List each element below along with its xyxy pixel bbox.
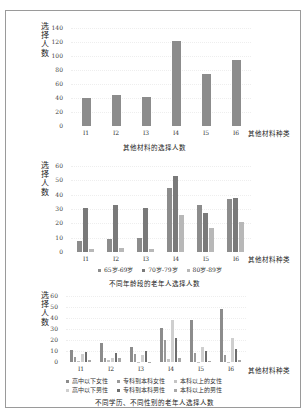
bar	[164, 340, 167, 362]
y-tick-label: 0	[47, 122, 63, 129]
x-tick-label: I3	[136, 129, 156, 136]
bar	[167, 188, 172, 253]
gridline	[66, 318, 246, 319]
legend-item: 80岁-89岁	[187, 265, 222, 274]
bar	[143, 208, 148, 252]
gridline	[71, 84, 251, 85]
bar	[100, 343, 103, 362]
bar	[81, 354, 84, 362]
gridline	[66, 307, 246, 308]
legend-swatch	[174, 389, 177, 392]
y-tick-label: 40	[47, 191, 63, 198]
bar	[201, 347, 204, 362]
bar	[137, 238, 142, 252]
y-tick-label: 10	[47, 234, 63, 241]
legend-label: 专科到本科男性	[123, 386, 165, 393]
bar	[173, 176, 178, 252]
gridline	[71, 28, 251, 29]
y-tick-label: 120	[47, 38, 63, 45]
gridline	[71, 180, 251, 181]
x-axis-title: 其他材料种类	[248, 254, 290, 264]
gridline	[71, 195, 251, 196]
y-tick-label: 0	[42, 358, 58, 365]
legend-swatch	[117, 389, 120, 392]
y-tick-label: 30	[47, 205, 63, 212]
chart-caption: 不同学历、不同性别的老年人选择人数	[6, 397, 302, 407]
y-tick-label: 30	[42, 325, 58, 332]
legend-swatch	[142, 269, 145, 272]
legend-label: 65岁-69岁	[104, 266, 133, 273]
legend-label: 专科到本科女性	[123, 377, 165, 384]
bar	[238, 360, 241, 362]
y-tick-label: 40	[42, 314, 58, 321]
bar	[107, 360, 110, 362]
legend-item: 70岁-79岁	[142, 265, 177, 274]
gridline	[71, 209, 251, 210]
bar	[104, 358, 107, 362]
bar	[149, 249, 154, 252]
legend-swatch	[66, 389, 69, 392]
gridline	[71, 223, 251, 224]
x-tick-label: I4	[161, 365, 181, 372]
x-tick-label: I1	[71, 365, 91, 372]
legend-swatch	[66, 380, 69, 383]
gridline	[71, 70, 251, 71]
bar	[179, 215, 184, 252]
bar	[239, 222, 244, 252]
bar	[227, 362, 230, 363]
plot-area: 0102030405060I1I2I3I4I5I6	[71, 166, 251, 252]
bar	[231, 338, 234, 362]
bar	[89, 249, 94, 252]
x-tick-label: I2	[106, 129, 126, 136]
x-tick-label: I4	[166, 129, 186, 136]
bar	[178, 358, 181, 362]
bar	[85, 352, 88, 362]
legend-swatch	[187, 269, 190, 272]
y-tick-label: 140	[47, 24, 63, 31]
legend: 65岁-69岁70岁-79岁80岁-89岁	[98, 265, 231, 274]
bar	[232, 60, 241, 126]
gridline	[71, 238, 251, 239]
bar	[224, 355, 227, 362]
gridline	[66, 296, 246, 297]
y-tick-label: 20	[47, 219, 63, 226]
bar	[145, 351, 148, 362]
legend-label: 80岁-89岁	[193, 266, 222, 273]
bar	[137, 362, 140, 363]
y-tick-label: 60	[47, 80, 63, 87]
x-tick-label: I5	[191, 365, 211, 372]
gridline	[66, 329, 246, 330]
bar	[88, 360, 91, 362]
bar	[115, 353, 118, 362]
x-axis-title: 其他材料种类	[248, 365, 290, 375]
chart-material-selection: 选择人数 020406080100120140I1I2I3I4I5I6 其他材料…	[6, 11, 302, 141]
legend-swatch	[98, 269, 101, 272]
legend-swatch	[117, 380, 120, 383]
y-tick-label: 80	[47, 66, 63, 73]
legend-item: 高中以下女性	[66, 376, 108, 385]
bar	[233, 198, 238, 252]
legend-item: 本科以上的男性	[174, 385, 222, 394]
x-tick-label: I6	[226, 255, 246, 262]
bar	[148, 362, 151, 363]
y-tick-label: 10	[42, 347, 58, 354]
x-axis-title: 其他材料种类	[248, 128, 290, 138]
x-tick-label: I5	[196, 129, 216, 136]
legend-label: 高中以下男性	[72, 386, 108, 393]
y-tick-label: 40	[47, 94, 63, 101]
bar	[175, 338, 178, 362]
bar	[70, 350, 73, 362]
bar	[111, 358, 114, 362]
bar	[119, 248, 124, 252]
bar	[134, 354, 137, 362]
plot-area: 0102030405060I1I2I3I4I5I6	[66, 296, 246, 362]
gridline	[71, 166, 251, 167]
x-tick-label: I1	[76, 255, 96, 262]
x-tick-label: I2	[106, 255, 126, 262]
bar	[118, 358, 121, 362]
legend-swatch	[174, 380, 177, 383]
bar	[74, 357, 77, 363]
chart-age-groups: 选择人数 0102030405060I1I2I3I4I5I6 其他材料种类 65…	[6, 151, 302, 276]
legend-label: 70岁-79岁	[148, 266, 177, 273]
bar	[209, 228, 214, 252]
